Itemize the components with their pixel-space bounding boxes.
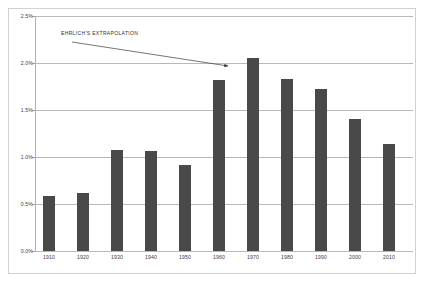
y-tick-label-1-5: 1.5% — [5, 107, 33, 113]
bar-1950 — [179, 165, 191, 252]
bar-2000 — [349, 119, 361, 251]
x-tick-label-1920: 1920 — [68, 254, 98, 261]
bar-1990 — [315, 89, 327, 251]
y-tick-label-2-0: 2.0% — [5, 60, 33, 66]
x-tick-label-1990: 1990 — [306, 254, 336, 261]
x-tick-label-2000: 2000 — [340, 254, 370, 261]
y-axis-line — [35, 16, 36, 252]
x-axis-labels: 1910 1920 1930 1940 1950 1960 1970 1980 … — [0, 254, 427, 266]
x-tick-label-2010: 2010 — [374, 254, 404, 261]
y-tick-mark-2-5 — [32, 16, 35, 17]
y-tick-mark-0-0 — [32, 251, 35, 252]
x-tick-label-1970: 1970 — [238, 254, 268, 261]
bar-1970 — [247, 58, 259, 251]
gridline-5 — [35, 16, 413, 17]
y-tick-mark-1-0 — [32, 157, 35, 158]
x-tick-label-1980: 1980 — [272, 254, 302, 261]
gridline-0 — [35, 251, 413, 252]
y-tick-mark-2-0 — [32, 63, 35, 64]
x-tick-label-1910: 1910 — [34, 254, 64, 261]
y-tick-label-1-0: 1.0% — [5, 154, 33, 160]
y-tick-mark-0-5 — [32, 204, 35, 205]
bar-chart: 2.5% 2.0% 1.5% 1.0% 0.5% 0.0% 1910 1920 … — [0, 0, 427, 285]
bar-1940 — [145, 151, 157, 251]
x-tick-label-1940: 1940 — [136, 254, 166, 261]
x-tick-label-1930: 1930 — [102, 254, 132, 261]
bar-1930 — [111, 150, 123, 252]
gridline-4 — [35, 63, 413, 64]
y-tick-mark-1-5 — [32, 110, 35, 111]
y-tick-label-0-5: 0.5% — [5, 201, 33, 207]
y-tick-label-2-5: 2.5% — [5, 13, 33, 19]
bar-1920 — [77, 193, 89, 251]
x-tick-label-1960: 1960 — [204, 254, 234, 261]
plot-area — [35, 16, 413, 251]
x-tick-label-1950: 1950 — [170, 254, 200, 261]
bar-1910 — [43, 196, 55, 252]
bar-2010 — [383, 144, 395, 251]
bar-1980 — [281, 79, 293, 251]
y-axis-labels: 2.5% 2.0% 1.5% 1.0% 0.5% 0.0% — [3, 0, 33, 285]
bar-1960 — [213, 80, 225, 251]
